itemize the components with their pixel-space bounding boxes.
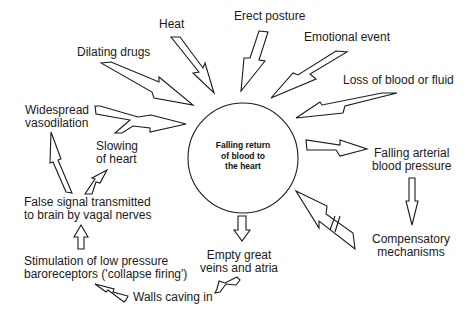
center-to-falling-arterial-arrow bbox=[306, 140, 367, 156]
node-slowing-of-heart-line2: of heart bbox=[96, 153, 138, 166]
erect-posture-arrow bbox=[241, 31, 268, 91]
emotional-event-arrow bbox=[271, 51, 347, 98]
center-label: Falling return of blood to the heart bbox=[203, 140, 283, 172]
node-widespread-vasodilation-line2: vasodilation bbox=[25, 117, 89, 130]
false-signal-to-vasodilation-arrow bbox=[50, 132, 72, 193]
cause-heat: Heat bbox=[159, 18, 184, 31]
compensatory-feedback-arrow bbox=[296, 191, 355, 249]
falling-arterial-to-compensatory-arrow bbox=[406, 178, 418, 225]
node-stimulation-baroreceptors: Stimulation of low pressure baroreceptor… bbox=[24, 255, 187, 281]
syncope-cycle-diagram: Falling return of blood to the heart Hea… bbox=[0, 0, 472, 320]
node-falling-arterial-pressure: Falling arterial blood pressure bbox=[372, 147, 451, 173]
center-label-line3: the heart bbox=[203, 161, 283, 172]
node-empty-great-veins: Empty great veins and atria bbox=[200, 249, 278, 275]
node-widespread-vasodilation: Widespread vasodilation bbox=[25, 104, 89, 130]
node-empty-veins-line2: veins and atria bbox=[200, 262, 278, 275]
center-label-line2: of blood to bbox=[203, 151, 283, 162]
loss-of-blood-arrow bbox=[296, 93, 397, 118]
node-compensatory-line2: mechanisms bbox=[372, 246, 450, 259]
stimulation-to-false-signal-arrow bbox=[74, 225, 88, 249]
cause-loss-of-blood: Loss of blood or fluid bbox=[343, 74, 454, 87]
false-signal-to-slowing-arrow bbox=[85, 170, 107, 194]
heat-arrow bbox=[171, 37, 214, 93]
cause-erect-posture: Erect posture bbox=[234, 10, 305, 23]
empty-veins-to-walls-arrow bbox=[215, 277, 240, 293]
center-label-line1: Falling return bbox=[203, 140, 283, 151]
node-walls-caving-in: Walls caving in bbox=[133, 291, 213, 304]
node-compensatory-mechanisms: Compensatory mechanisms bbox=[372, 233, 450, 259]
node-falling-arterial-line2: blood pressure bbox=[372, 160, 451, 173]
cause-emotional-event: Emotional event bbox=[304, 31, 390, 44]
node-slowing-of-heart: Slowing of heart bbox=[96, 140, 138, 166]
cause-dilating-drugs: Dilating drugs bbox=[77, 46, 150, 59]
node-false-signal: False signal transmitted to brain by vag… bbox=[24, 196, 151, 222]
node-stimulation-line2: baroreceptors ('collapse firing') bbox=[24, 268, 187, 281]
walls-to-stimulation-arrow bbox=[95, 284, 128, 302]
vasodilation-to-center-arrow bbox=[95, 106, 186, 133]
node-false-signal-line2: to brain by vagal nerves bbox=[24, 209, 151, 222]
center-to-empty-veins-arrow bbox=[234, 216, 250, 241]
dilating-drugs-arrow bbox=[101, 62, 193, 105]
